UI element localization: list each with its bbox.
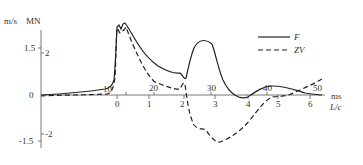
lc-tick-label: 4 (246, 99, 251, 109)
ms-tick-label: 40 (263, 83, 273, 93)
x-bottom-unit-label: L/c (329, 102, 342, 112)
lc-tick-label: 5 (276, 99, 281, 109)
ms-tick-label: 50 (313, 83, 323, 93)
lc-tick-label: 2 (180, 99, 185, 109)
ms-tick-label: 30 (207, 83, 217, 93)
y-left-tick-label: 0 (29, 90, 34, 100)
lc-tick-label: 1 (147, 99, 152, 109)
y-right-label: MN (26, 16, 41, 26)
chart: m/s MN 1.5 0 -1.5 2 -2 10 20 30 40 50 0 … (0, 0, 363, 165)
lc-tick-label: 6 (308, 99, 313, 109)
legend-f-label: F (293, 32, 300, 42)
y-right-tick-label: -2 (45, 129, 53, 139)
y-left-label: m/s (4, 16, 18, 26)
ms-ticks (126, 92, 267, 95)
legend-zv-label: ZV (294, 45, 306, 55)
series-zv-line (41, 27, 322, 142)
ms-tick-label: 20 (149, 83, 159, 93)
y-left-tick-label: 1.5 (24, 43, 36, 53)
x-top-unit-label: ms (331, 91, 342, 101)
lc-tick-label: 0 (115, 99, 120, 109)
lc-tick-label: 3 (213, 99, 218, 109)
y-left-tick-label: -1.5 (19, 136, 34, 146)
y-right-tick-label: 2 (45, 48, 50, 58)
